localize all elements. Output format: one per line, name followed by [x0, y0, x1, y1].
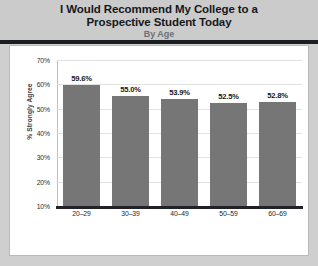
- chart-title-line1: I Would Recommend My College to a: [14, 3, 304, 16]
- plot-wrapper: % Strongly Agree 70% 60% 50% 40% 30% 20%…: [10, 46, 308, 255]
- y-tick-label: 60%: [10, 81, 50, 88]
- y-tick-label: 10%: [10, 203, 50, 210]
- chart-panel: % Strongly Agree 70% 60% 50% 40% 30% 20%…: [9, 45, 309, 256]
- bar[interactable]: [63, 85, 100, 206]
- x-axis-line: [56, 206, 303, 209]
- y-tick-label: 40%: [10, 130, 50, 137]
- bar[interactable]: [259, 102, 296, 206]
- bar[interactable]: [112, 96, 149, 206]
- chart-subtitle: By Age: [0, 29, 318, 40]
- x-tick-label: 20–29: [57, 210, 106, 217]
- header-divider: [0, 40, 318, 44]
- bar-group[interactable]: 59.6%: [57, 60, 106, 206]
- bar[interactable]: [161, 99, 198, 206]
- bar-value-label: 52.8%: [253, 91, 302, 100]
- bar-series: 59.6% 55.0% 53.9% 52.5% 52.8%: [57, 60, 302, 206]
- x-tick-label: 60–69: [253, 210, 302, 217]
- y-tick-label: 30%: [10, 154, 50, 161]
- bar-value-label: 59.6%: [57, 74, 106, 83]
- bar[interactable]: [210, 103, 247, 206]
- y-tick-label: 50%: [10, 106, 50, 113]
- chart-screenshot: I Would Recommend My College to a Prospe…: [0, 0, 318, 266]
- bar-group[interactable]: 53.9%: [155, 60, 204, 206]
- bar-value-label: 52.5%: [204, 92, 253, 101]
- x-tick-label: 50–59: [204, 210, 253, 217]
- bar-group[interactable]: 52.8%: [253, 60, 302, 206]
- x-axis-ticks: 20–29 30–39 40–49 50–59 60–69: [57, 210, 302, 224]
- chart-header: I Would Recommend My College to a Prospe…: [0, 0, 318, 40]
- y-tick-label: 20%: [10, 179, 50, 186]
- x-tick-label: 30–39: [106, 210, 155, 217]
- bar-group[interactable]: 52.5%: [204, 60, 253, 206]
- bar-value-label: 55.0%: [106, 85, 155, 94]
- bar-group[interactable]: 55.0%: [106, 60, 155, 206]
- x-tick-label: 40–49: [155, 210, 204, 217]
- y-tick-label: 70%: [10, 57, 50, 64]
- chart-title-line2: Prospective Student Today: [0, 16, 318, 29]
- bar-value-label: 53.9%: [155, 88, 204, 97]
